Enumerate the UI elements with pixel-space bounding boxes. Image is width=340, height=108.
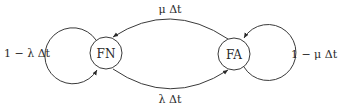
self-loop-fa [244, 25, 296, 81]
self-loop-fn [45, 28, 97, 84]
edge-fa-to-fn [113, 19, 228, 39]
label-fn-to-fa: λ Δt [159, 93, 182, 106]
state-diagram: FN FA 1 − λ Δt μ Δt λ Δt 1 − μ Δt [0, 0, 340, 108]
node-fa-label: FA [226, 48, 242, 62]
label-fa-to-fn: μ Δt [158, 3, 182, 16]
label-self-loop-fa: 1 − μ Δt [291, 48, 338, 61]
label-self-loop-fn: 1 − λ Δt [4, 47, 51, 60]
edge-fn-to-fa [113, 69, 228, 89]
node-fa: FA [218, 38, 250, 70]
node-fn: FN [90, 37, 122, 69]
node-fn-label: FN [97, 47, 116, 61]
